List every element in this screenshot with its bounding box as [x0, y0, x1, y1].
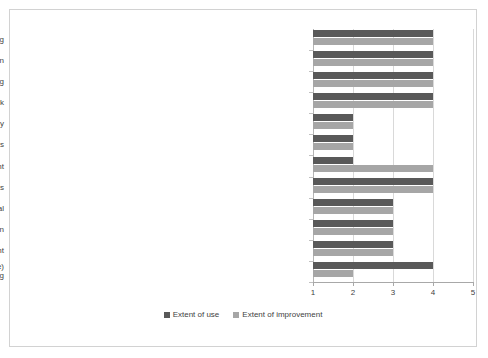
bar-group	[313, 113, 473, 134]
bar-group	[313, 134, 473, 155]
bar-extent-of-improvement	[313, 207, 393, 214]
category-label: Techniques for staff appraisal	[0, 204, 4, 213]
legend-item[interactable]: Extent of improvement	[233, 310, 322, 319]
bar-extent-of-use	[313, 135, 353, 142]
tick-mark-1	[313, 282, 314, 286]
category-label: Change management techniques	[0, 140, 4, 149]
legend-item[interactable]: Extent of use	[164, 310, 220, 319]
tick-mark-3	[393, 282, 394, 286]
category-label: Personnel policy and strategy developmen…	[0, 246, 4, 255]
category-label: Basic project management	[0, 162, 4, 171]
bar-extent-of-improvement	[313, 165, 433, 172]
bar-extent-of-improvement	[313, 59, 433, 66]
bar-group	[313, 177, 473, 198]
bar-extent-of-improvement	[313, 122, 353, 129]
bar-group	[313, 50, 473, 71]
bar-extent-of-improvement	[313, 270, 353, 277]
x-tick-label: 5	[471, 288, 475, 297]
x-tick-label: 2	[351, 288, 355, 297]
bar-group	[313, 198, 473, 219]
category-label: Techniques for staff motivation	[0, 225, 4, 234]
bar-extent-of-use	[313, 220, 393, 227]
category-label: Techniques for human resource needs (cur…	[0, 262, 4, 280]
category-label: Teamwork	[0, 98, 4, 107]
bar-group	[313, 261, 473, 282]
bar-extent-of-improvement	[313, 249, 393, 256]
bar-group	[313, 92, 473, 113]
bar-extent-of-use	[313, 72, 433, 79]
bar-extent-of-improvement	[313, 186, 433, 193]
category-label: Information Technology	[0, 119, 4, 128]
category-label: Communication	[0, 56, 4, 65]
bar-extent-of-improvement	[313, 80, 433, 87]
bar-group	[313, 240, 473, 261]
plot-area: 12345	[313, 29, 473, 282]
category-tick	[309, 282, 313, 283]
bar-extent-of-use	[313, 178, 433, 185]
bar-extent-of-use	[313, 30, 433, 37]
chart-figure: 12345 Problem solvingCommunicationNetwor…	[9, 9, 477, 347]
bar-extent-of-use	[313, 241, 393, 248]
x-tick-label: 3	[391, 288, 395, 297]
bar-extent-of-use	[313, 114, 353, 121]
bar-extent-of-improvement	[313, 228, 393, 235]
bar-extent-of-use	[313, 93, 433, 100]
legend-swatch-icon	[233, 312, 239, 318]
bar-group	[313, 156, 473, 177]
tick-mark-5	[473, 282, 474, 286]
x-tick-label: 1	[311, 288, 315, 297]
legend-label: Extent of improvement	[242, 310, 322, 319]
chart-legend: Extent of useExtent of improvement	[10, 310, 476, 319]
x-tick-label: 4	[431, 288, 435, 297]
bar-extent-of-use	[313, 199, 393, 206]
tick-mark-4	[433, 282, 434, 286]
legend-label: Extent of use	[173, 310, 220, 319]
bar-extent-of-use	[313, 51, 433, 58]
bar-extent-of-improvement	[313, 143, 353, 150]
bar-group	[313, 71, 473, 92]
bar-extent-of-improvement	[313, 101, 433, 108]
bar-extent-of-use	[313, 262, 433, 269]
category-label: Networking	[0, 77, 4, 86]
tick-mark-2	[353, 282, 354, 286]
gridline-5	[473, 29, 474, 282]
bar-group	[313, 29, 473, 50]
legend-swatch-icon	[164, 312, 170, 318]
category-label: Management of Industrial relations	[0, 183, 4, 192]
category-label: Problem solving	[0, 35, 4, 44]
bar-group	[313, 219, 473, 240]
bar-extent-of-use	[313, 157, 353, 164]
bar-extent-of-improvement	[313, 38, 433, 45]
